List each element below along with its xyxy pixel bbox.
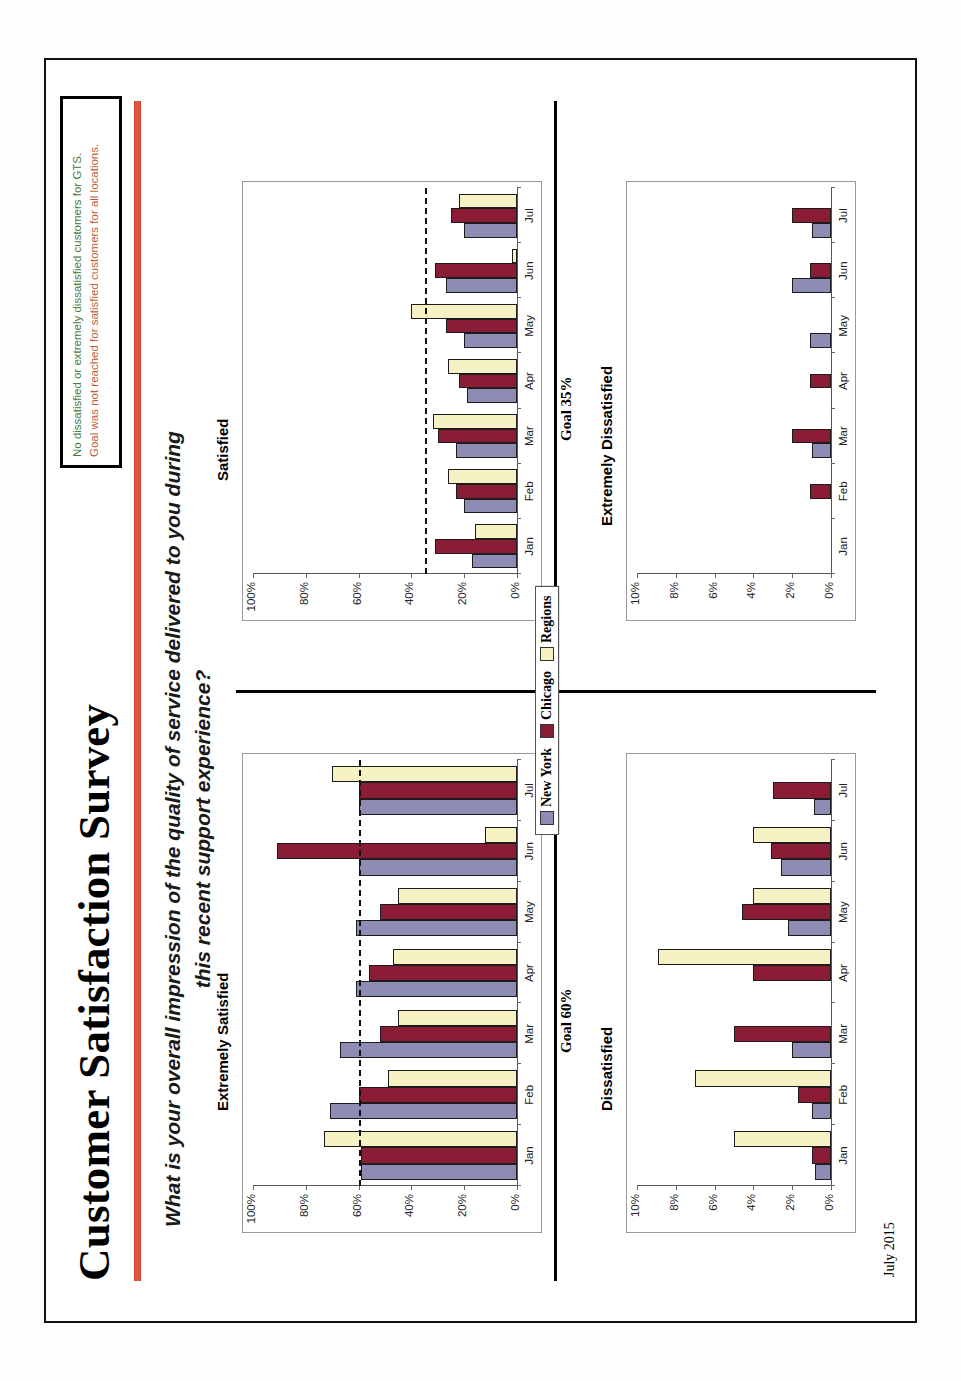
y-tick-label: 8% [668, 582, 680, 620]
goal-line-satisfied [425, 188, 427, 574]
x-tick-mark [831, 518, 835, 519]
bar-extremely-dissatisfied-Jun-new-york [792, 278, 831, 293]
chart-panel-extremely-dissatisfied: Extremely Dissatisfied0%2%4%6%8%10%JanFe… [46, 60, 915, 1321]
y-tick-mark [676, 574, 677, 578]
x-tick-label: May [837, 298, 849, 353]
y-axis-line [637, 573, 831, 574]
y-tick-label: 2% [784, 582, 796, 620]
bar-extremely-dissatisfied-Mar-new-york [812, 444, 831, 459]
legend-label-new-york: New York [539, 748, 555, 807]
bar-extremely-dissatisfied-Jul-new-york [812, 223, 831, 238]
x-tick-label: Jan [837, 519, 849, 574]
goal-line-extremely-satisfied [359, 760, 361, 1186]
x-axis-line [831, 188, 832, 574]
slide-content: Customer Satisfaction Survey No dissatis… [46, 60, 915, 1321]
bar-extremely-dissatisfied-Mar-chicago [792, 429, 831, 444]
plot-area-extremely-dissatisfied: 0%2%4%6%8%10%JanFebMarAprMayJunJul [626, 181, 856, 621]
x-tick-mark [831, 573, 835, 574]
bar-extremely-dissatisfied-Jul-chicago [792, 208, 831, 223]
footer-date: July 2015 [882, 1222, 898, 1277]
y-tick-label: 6% [707, 582, 719, 620]
y-tick-label: 4% [745, 582, 757, 620]
x-tick-mark [831, 242, 835, 243]
x-tick-mark [831, 297, 835, 298]
y-tick-mark [753, 574, 754, 578]
y-tick-mark [637, 574, 638, 578]
y-tick-label: 10% [629, 582, 641, 620]
legend-item-chicago: Chicago [539, 671, 555, 738]
x-tick-label: Apr [837, 353, 849, 408]
x-tick-mark [831, 187, 835, 188]
y-tick-mark [715, 574, 716, 578]
legend-item-new-york: New York [539, 748, 555, 825]
x-tick-label: Mar [837, 409, 849, 464]
x-tick-label: Jul [837, 188, 849, 243]
x-tick-label: Feb [837, 464, 849, 519]
y-tick-mark [831, 574, 832, 578]
x-tick-mark [831, 408, 835, 409]
x-tick-mark [831, 352, 835, 353]
legend-swatch-chicago [540, 724, 554, 738]
bar-extremely-dissatisfied-May-new-york [810, 333, 831, 348]
page-canvas: Customer Satisfaction Survey No dissatis… [0, 0, 961, 1381]
x-tick-label: Jun [837, 243, 849, 298]
chart-legend: New York Chicago Regions [535, 586, 559, 835]
legend-item-regions: Regions [539, 596, 555, 661]
x-tick-mark [831, 463, 835, 464]
legend-label-regions: Regions [539, 596, 555, 643]
bar-extremely-dissatisfied-Apr-chicago [810, 374, 831, 389]
bar-extremely-dissatisfied-Feb-chicago [810, 484, 831, 499]
y-tick-mark [792, 574, 793, 578]
legend-label-chicago: Chicago [539, 671, 555, 720]
slide-frame: Customer Satisfaction Survey No dissatis… [44, 58, 917, 1323]
legend-swatch-new-york [540, 811, 554, 825]
chart-title-extremely-dissatisfied: Extremely Dissatisfied [598, 366, 615, 526]
y-tick-label: 0% [823, 582, 835, 620]
legend-swatch-regions [540, 647, 554, 661]
bar-extremely-dissatisfied-Jun-chicago [810, 263, 831, 278]
